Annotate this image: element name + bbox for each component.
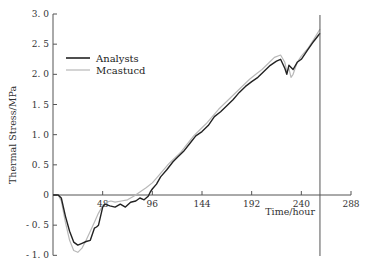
legend-label-mcastucd: Mcastucd [96,65,146,76]
y-axis-title: Thermal Stress/MPa [7,86,18,184]
x-axis-title: Time/hour [265,206,315,217]
legend-label-analysts: Analysts [95,53,139,64]
y-tick-label: - 1. 0 [26,250,49,260]
y-tick-label: 3. 0 [32,9,49,19]
y-tick-label: 2. 0 [32,69,49,79]
y-tick-label: 1. 5 [32,100,49,110]
thermal-stress-chart: 3. 02. 52. 01. 51. 00. 50- 0. 5- 1. 0 48… [0,0,367,269]
y-tick-label: 1. 0 [32,130,49,140]
x-tick-label: 144 [193,199,210,209]
x-tick-label: 96 [147,199,159,209]
x-tick-label: 288 [342,199,359,209]
series-layer [53,29,320,252]
y-tick-label: 0 [43,190,49,200]
series-line-mcastucd [53,29,320,252]
y-tick-label: 0. 5 [32,160,49,170]
legend: Analysts Mcastucd [66,53,146,76]
y-tick-label: 2. 5 [32,39,49,49]
x-tick-label: 192 [243,199,260,209]
y-tick-label: - 0. 5 [26,220,49,230]
y-axis: 3. 02. 52. 01. 51. 00. 50- 0. 5- 1. 0 [26,9,57,260]
